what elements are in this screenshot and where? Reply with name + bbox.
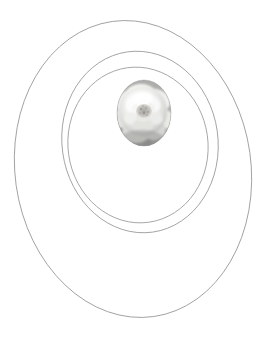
figure-canvas (0, 0, 272, 341)
bloom-core (136, 104, 152, 118)
ellipse-diagram-svg (0, 0, 272, 341)
